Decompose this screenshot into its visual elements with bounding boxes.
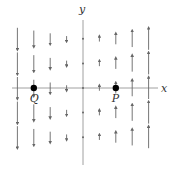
x-axis-label: x — [161, 82, 168, 95]
zero-vector-dot — [82, 87, 84, 89]
zero-vector-dot — [82, 136, 84, 138]
zero-vector-dot — [82, 112, 84, 114]
point-p-label: P — [111, 92, 120, 105]
axes: x y — [12, 3, 168, 165]
vector-field-diagram: x y QP — [0, 0, 177, 178]
y-axis-label: y — [78, 3, 86, 16]
point-q-label: Q — [30, 92, 39, 105]
point-p-marker — [113, 85, 119, 91]
zero-vector-dot — [82, 62, 84, 64]
zero-vector-dot — [82, 38, 84, 40]
point-q-marker — [31, 85, 37, 91]
